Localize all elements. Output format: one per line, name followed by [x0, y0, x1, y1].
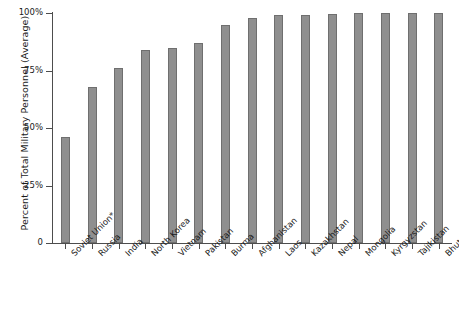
bar [274, 15, 283, 243]
x-axis-category-label: Burma [229, 251, 236, 258]
x-axis-tick [439, 244, 440, 249]
x-axis-category-label: Tajikistan [416, 251, 423, 258]
x-axis-category-label: Afghanistan [256, 251, 263, 258]
x-axis-category-label: Pakistan [203, 251, 210, 258]
x-axis-tick [65, 244, 66, 249]
y-axis-tick-label: 25% [24, 180, 43, 190]
x-axis-category-label: Russia [96, 251, 103, 258]
x-axis-category-label: Kazakhstan [309, 251, 316, 258]
x-axis-category-label: Bhutan [443, 251, 450, 258]
bar [221, 25, 230, 244]
bar [248, 18, 257, 243]
bar [301, 15, 310, 243]
x-axis-category-label: North Korea [149, 251, 156, 258]
bar [354, 13, 363, 243]
x-axis-category-label: India [123, 251, 130, 258]
x-axis-tick [172, 244, 173, 249]
x-axis-category-label: Soviet Union* [69, 251, 76, 258]
bar-chart: Percent of Total Military Personnel (Ave… [0, 0, 459, 317]
y-axis-tick-label: 0 [38, 237, 43, 247]
plot-area [52, 13, 452, 243]
x-axis-category-label: Kyrgyzstan [389, 251, 396, 258]
x-axis-category-label: Nepal [336, 251, 343, 258]
bar [408, 13, 417, 243]
x-axis-tick [145, 244, 146, 249]
x-axis-tick [252, 244, 253, 249]
x-axis-category-label: Vietnam [176, 251, 183, 258]
x-axis-tick [279, 244, 280, 249]
bar [88, 87, 97, 243]
bar [194, 43, 203, 243]
x-axis-tick [332, 244, 333, 249]
x-axis-tick [225, 244, 226, 249]
bar [61, 137, 70, 243]
x-axis-tick [385, 244, 386, 249]
y-axis-tick-label: 50% [24, 122, 43, 132]
bar [434, 13, 443, 243]
x-axis-tick [412, 244, 413, 249]
bar [141, 50, 150, 243]
y-axis-tick-label: 75% [24, 65, 43, 75]
x-axis-tick [359, 244, 360, 249]
y-axis-tick [46, 243, 52, 244]
x-axis-category-label: Mongolia [363, 251, 370, 258]
bar [328, 14, 337, 243]
x-axis-category-label: Laos [283, 251, 290, 258]
y-axis-tick-label: 100% [19, 7, 43, 17]
bar [168, 48, 177, 244]
bar [381, 13, 390, 243]
x-axis-tick [199, 244, 200, 249]
x-axis-tick [92, 244, 93, 249]
x-axis-tick [119, 244, 120, 249]
x-axis-tick [305, 244, 306, 249]
